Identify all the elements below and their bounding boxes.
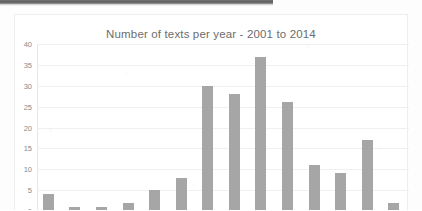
bar [123, 203, 134, 210]
y-axis-tick-label: 15 [24, 144, 32, 153]
bar [202, 86, 213, 210]
bar [282, 102, 293, 210]
scan-artifact-band [0, 0, 273, 4]
bar [388, 203, 399, 210]
bar [43, 194, 54, 210]
bar [176, 178, 187, 210]
y-axis-tick-label: 35 [24, 60, 32, 69]
chart-title: Number of texts per year - 2001 to 2014 [15, 28, 407, 40]
y-axis-tick-label: 40 [24, 40, 32, 49]
plot-area: 4035302520151050 [37, 44, 409, 210]
y-axis-tick-label: 30 [24, 81, 32, 90]
bar-chart: Number of texts per year - 2001 to 2014 … [14, 14, 408, 210]
y-axis-tick-label: 0 [28, 207, 32, 211]
y-axis-tick-label: 5 [28, 186, 32, 195]
bar [362, 140, 373, 210]
bar-series [37, 44, 409, 210]
bar [309, 165, 320, 210]
y-axis-tick-label: 25 [24, 102, 32, 111]
bar [335, 173, 346, 210]
y-axis-tick-label: 20 [24, 123, 32, 132]
bar [96, 207, 107, 210]
bar [149, 190, 160, 210]
bar [229, 94, 240, 210]
bar [255, 57, 266, 210]
bar [69, 207, 80, 210]
y-axis-tick-label: 10 [24, 165, 32, 174]
